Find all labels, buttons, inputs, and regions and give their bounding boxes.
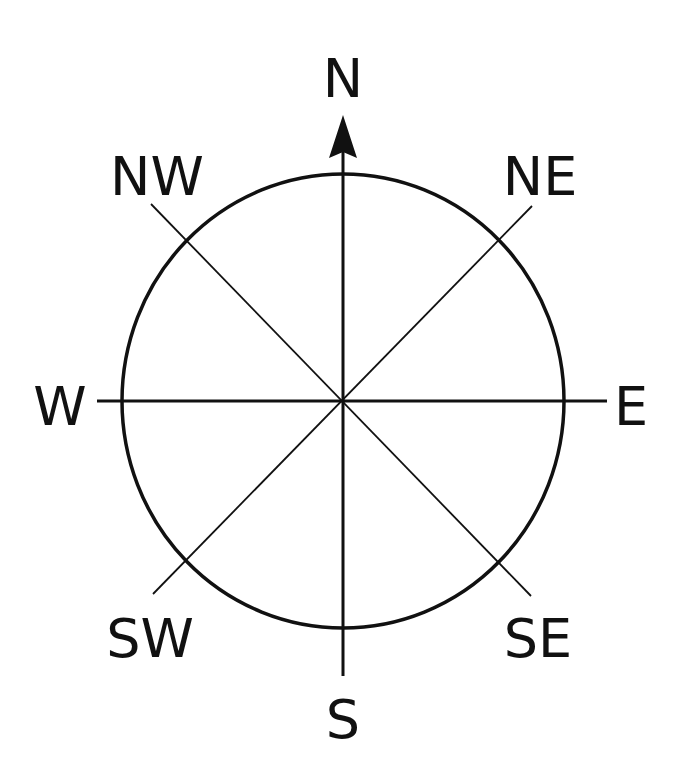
label-n: N — [323, 47, 363, 110]
label-s: S — [326, 688, 360, 751]
label-e: E — [614, 375, 648, 438]
north-arrow-icon — [329, 115, 357, 158]
label-ne: NE — [503, 145, 578, 208]
label-se: SE — [504, 607, 572, 670]
label-sw: SW — [106, 607, 194, 670]
label-w: W — [33, 375, 86, 438]
label-nw: NW — [110, 145, 204, 208]
compass-diagram: N NE E SE S SW W NW — [0, 0, 678, 778]
